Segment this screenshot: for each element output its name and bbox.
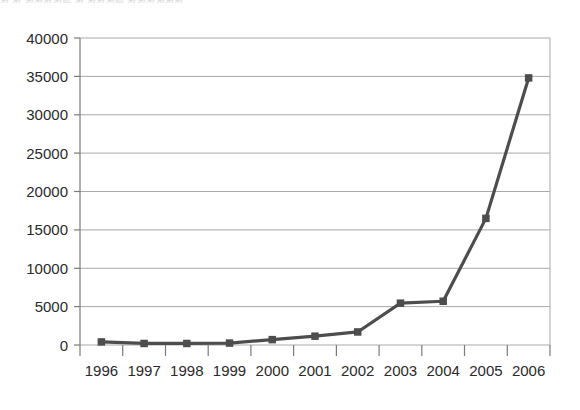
data-point-2002 xyxy=(354,328,362,336)
data-point-1996 xyxy=(98,338,106,346)
data-point-2005 xyxy=(482,215,490,223)
y-axis-label-40000: 40000 xyxy=(26,30,68,47)
data-point-2003 xyxy=(397,299,405,307)
data-point-1998 xyxy=(183,340,191,348)
data-point-2006 xyxy=(525,74,533,82)
x-axis-label-2000: 2000 xyxy=(256,362,289,379)
data-point-2000 xyxy=(269,336,277,344)
y-axis-tick-labels: 40000 35000 30000 25000 20000 15000 1000… xyxy=(26,30,68,354)
x-axis-label-1996: 1996 xyxy=(85,362,118,379)
y-axis-label-30000: 30000 xyxy=(26,106,68,123)
line-chart: 40000 35000 30000 25000 20000 15000 1000… xyxy=(0,0,580,410)
data-point-2004 xyxy=(439,298,447,306)
x-axis-ticks xyxy=(80,345,550,356)
x-axis-label-2002: 2002 xyxy=(341,362,374,379)
y-axis-label-10000: 10000 xyxy=(26,260,68,277)
x-axis-label-1999: 1999 xyxy=(213,362,246,379)
data-point-2001 xyxy=(311,332,319,340)
x-axis-label-1998: 1998 xyxy=(170,362,203,379)
x-axis-label-2004: 2004 xyxy=(427,362,460,379)
y-axis-label-0: 0 xyxy=(60,337,68,354)
x-axis-label-1997: 1997 xyxy=(127,362,160,379)
y-axis-label-15000: 15000 xyxy=(26,221,68,238)
y-axis-label-5000: 5000 xyxy=(35,298,68,315)
y-axis-label-25000: 25000 xyxy=(26,145,68,162)
data-point-1997 xyxy=(140,340,148,348)
x-axis-label-2001: 2001 xyxy=(298,362,331,379)
y-axis-label-20000: 20000 xyxy=(26,183,68,200)
x-axis-tick-labels: 1996 1997 1998 1999 2000 2001 2002 2003 … xyxy=(85,362,546,379)
data-point-1999 xyxy=(226,339,234,347)
x-axis-label-2003: 2003 xyxy=(384,362,417,379)
x-axis-label-2006: 2006 xyxy=(512,362,545,379)
y-axis-ticks xyxy=(74,38,80,345)
chart-figure: 第 第 第第第第题 第 第第第题 第第第第第第 xyxy=(0,0,580,410)
x-axis-label-2005: 2005 xyxy=(469,362,502,379)
y-axis-label-35000: 35000 xyxy=(26,68,68,85)
